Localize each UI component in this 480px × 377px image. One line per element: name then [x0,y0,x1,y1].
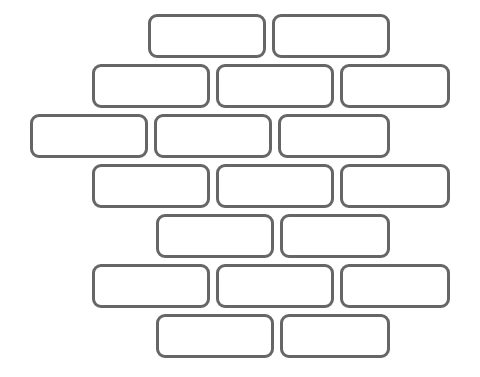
brick-label [95,67,207,105]
brick-label [343,167,447,205]
brick[interactable] [340,64,450,108]
brick-wall-canvas [0,0,480,377]
brick[interactable] [30,114,148,158]
brick-label [343,267,447,305]
brick-label [219,167,331,205]
brick[interactable] [148,14,266,58]
brick[interactable] [216,264,334,308]
brick-label [33,117,145,155]
brick-label [283,217,387,255]
brick-label [283,317,387,355]
brick-label [151,17,263,55]
brick[interactable] [280,314,390,358]
brick[interactable] [216,164,334,208]
brick-label [281,117,387,155]
brick-label [343,67,447,105]
brick-label [219,267,331,305]
brick[interactable] [156,314,274,358]
brick-label [95,167,207,205]
brick[interactable] [92,64,210,108]
brick[interactable] [92,264,210,308]
brick-label [219,67,331,105]
brick[interactable] [154,114,272,158]
brick-label [159,317,271,355]
brick-label [275,17,387,55]
brick[interactable] [272,14,390,58]
brick-label [159,217,271,255]
brick[interactable] [156,214,274,258]
brick-label [95,267,207,305]
brick[interactable] [340,164,450,208]
brick[interactable] [340,264,450,308]
brick-label [157,117,269,155]
brick[interactable] [92,164,210,208]
brick[interactable] [280,214,390,258]
brick[interactable] [278,114,390,158]
brick[interactable] [216,64,334,108]
